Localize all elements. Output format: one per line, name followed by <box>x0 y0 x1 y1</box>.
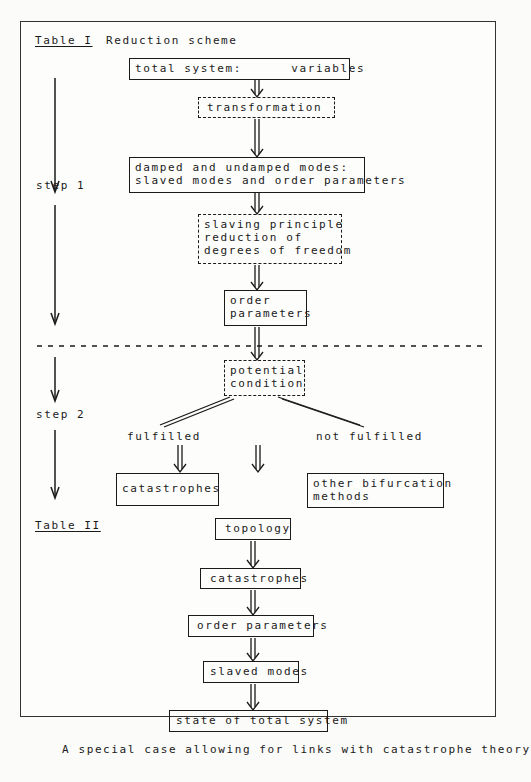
arrow-notfulfilled-to-other-head <box>252 464 264 472</box>
arrow-modes-to-slaving-head <box>251 206 263 214</box>
arrow-order-to-slaved-head <box>247 653 259 661</box>
arrow-transform-to-modes-head <box>251 149 263 157</box>
arrow-topology-to-catastrophes-head <box>247 560 259 568</box>
arrow-catastrophes-to-order-head <box>247 607 259 615</box>
arrow-slaving-to-order-head <box>251 282 263 290</box>
arrow-slaved-to-state-head <box>247 702 259 710</box>
branch-fulfilled-line-1 <box>160 397 230 425</box>
arrow-order-to-potential-head <box>251 352 263 360</box>
arrow-fulfilled-to-catastrophes-head <box>174 464 186 472</box>
arrow-total-to-transform-head <box>251 89 263 97</box>
branch-fulfilled-line-2 <box>164 399 234 427</box>
branch-not-fulfilled-line-2 <box>282 399 364 427</box>
